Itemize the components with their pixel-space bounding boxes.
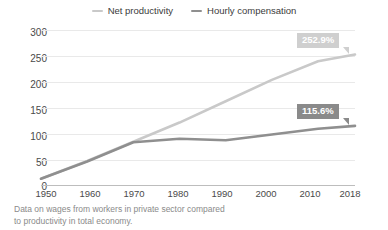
x-axis-label-2000: 2000	[246, 189, 286, 199]
x-axis-label-2018: 2018	[330, 189, 370, 199]
chart-legend: Net productivity Hourly compensation	[0, 6, 388, 16]
badge-net-productivity: 252.9%	[297, 33, 339, 48]
legend-swatch-net-productivity	[92, 10, 103, 13]
caption-line-2: to productivity in total economy.	[14, 215, 344, 227]
caption-line-1: Data on wages from workers in private se…	[14, 203, 344, 215]
badge-tail-net-productivity	[343, 47, 349, 54]
badge-hourly-compensation: 115.6%	[297, 104, 339, 119]
legend-label-net-productivity: Net productivity	[108, 6, 173, 16]
legend-item-net-productivity[interactable]: Net productivity	[92, 6, 173, 16]
x-axis-label-1970: 1970	[114, 189, 154, 199]
x-axis-label-2010: 2010	[290, 189, 330, 199]
legend-label-hourly-compensation: Hourly compensation	[207, 6, 296, 16]
legend-item-hourly-compensation[interactable]: Hourly compensation	[191, 6, 296, 16]
x-axis-label-1990: 1990	[202, 189, 242, 199]
productivity-compensation-chart: Net productivity Hourly compensation 300…	[0, 0, 388, 230]
line-hourly-compensation	[41, 126, 355, 179]
legend-swatch-hourly-compensation	[191, 10, 202, 13]
x-axis-label-1960: 1960	[70, 189, 110, 199]
x-axis-label-1950: 1950	[26, 189, 66, 199]
badge-tail-hourly-compensation	[343, 118, 349, 125]
chart-caption: Data on wages from workers in private se…	[14, 203, 344, 228]
x-axis-label-1980: 1980	[158, 189, 198, 199]
